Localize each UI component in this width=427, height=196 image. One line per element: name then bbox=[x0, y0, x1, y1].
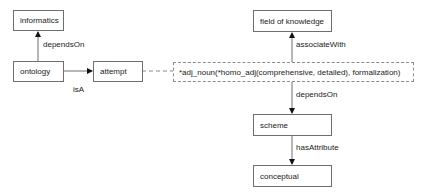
node-label: scheme bbox=[260, 121, 288, 130]
node-label: conceptual bbox=[260, 172, 299, 181]
edge-label-hasattribute: hasAttribute bbox=[296, 143, 339, 152]
node-field-of-knowledge[interactable]: field of knowledge bbox=[253, 10, 332, 32]
edge-label-isa: isA bbox=[73, 85, 84, 94]
node-attempt[interactable]: attempt bbox=[93, 61, 143, 82]
node-conceptual[interactable]: conceptual bbox=[253, 165, 332, 187]
node-label: field of knowledge bbox=[260, 17, 324, 26]
node-label: informatics bbox=[20, 16, 59, 25]
edge-label-associatewith: associateWith bbox=[296, 40, 346, 49]
node-compound-concept[interactable]: *adj_noun(*homo_adj(comprehensive, detai… bbox=[173, 62, 414, 82]
node-label: *adj_noun(*homo_adj(comprehensive, detai… bbox=[179, 68, 400, 77]
node-ontology[interactable]: ontology bbox=[13, 61, 64, 82]
node-label: attempt bbox=[100, 67, 127, 76]
node-scheme[interactable]: scheme bbox=[253, 114, 332, 136]
node-informatics[interactable]: informatics bbox=[13, 10, 64, 31]
edge-label-dependson-2: dependsOn bbox=[296, 90, 337, 99]
edge-layer bbox=[0, 0, 427, 196]
node-label: ontology bbox=[20, 67, 50, 76]
edge-label-dependson: dependsOn bbox=[43, 40, 84, 49]
